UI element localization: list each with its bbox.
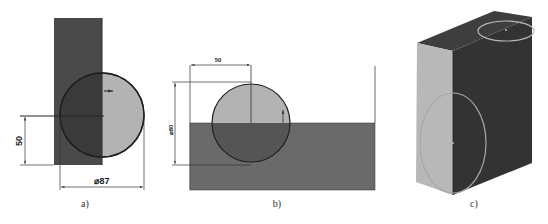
panel-c-front-face — [416, 43, 453, 195]
figure-canvas: 50 ⌀87 a) 50 ⌀80 b) — [0, 0, 548, 224]
panel-a-dim-50-label: 50 — [14, 136, 24, 146]
panel-b-dim-50-label: 50 — [215, 57, 222, 63]
panel-b: 50 ⌀80 b) — [168, 57, 375, 210]
panel-a: 50 ⌀87 a) — [14, 18, 144, 210]
panel-a-dim-87-label: ⌀87 — [94, 176, 109, 186]
panel-b-dim-80-label: ⌀80 — [168, 124, 174, 135]
panel-b-caption: b) — [273, 198, 281, 210]
panel-a-caption: a) — [81, 198, 89, 210]
panel-c-caption: c) — [470, 198, 478, 210]
panel-c: c) — [416, 11, 534, 210]
